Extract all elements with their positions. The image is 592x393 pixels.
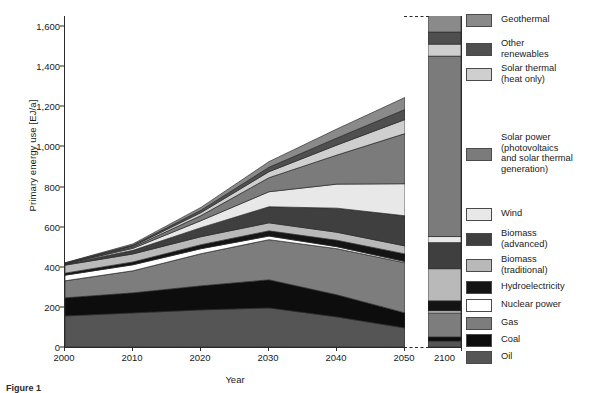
bar-band (428, 32, 461, 44)
x-tick-mark (336, 347, 337, 351)
axis-break-bottom (404, 347, 429, 348)
bar-band (428, 237, 461, 243)
x-tick-label: 2040 (325, 352, 346, 363)
y-tick-label: 0 (55, 342, 60, 353)
bar-band (428, 16, 461, 32)
legend-label: Other renewables (501, 38, 549, 59)
legend-swatch (466, 334, 492, 347)
bar-band (428, 269, 461, 301)
legend-label: Oil (501, 351, 512, 362)
legend-item[interactable]: Solar power (photovoltaics and solar the… (466, 132, 573, 174)
x-tick-label-2100: 2100 (434, 352, 455, 363)
bar-band (428, 44, 461, 56)
area-series-group (65, 16, 405, 347)
legend-swatch (466, 317, 492, 330)
legend-swatch (466, 68, 492, 81)
legend-swatch (466, 259, 492, 272)
legend-label: Nuclear power (501, 299, 561, 310)
x-tick-mark (200, 347, 201, 351)
legend-item[interactable]: Nuclear power (466, 299, 561, 312)
x-tick-label: 2050 (393, 352, 414, 363)
x-axis-title: Year (60, 374, 410, 385)
bar-band (428, 313, 461, 337)
legend-swatch (466, 351, 492, 364)
y-tick-label: 800 (44, 181, 60, 192)
legend-label: Biomass (advanced) (501, 228, 548, 249)
legend-item[interactable]: Biomass (advanced) (466, 228, 548, 249)
legend-label: Hydroelectricity (501, 281, 565, 292)
y-tick-label: 1,200 (36, 101, 60, 112)
x-tick-mark (132, 347, 133, 351)
legend-item[interactable]: Wind (466, 208, 522, 221)
legend-item[interactable]: Other renewables (466, 38, 549, 59)
year-2100-bar-plot (428, 16, 462, 348)
y-tick-label: 400 (44, 261, 60, 272)
bar-band (428, 56, 461, 237)
y-axis-ticks: 02004006008001,0001,2001,4001,600 (16, 0, 60, 391)
main-stacked-area-plot (64, 16, 405, 348)
legend-swatch (466, 299, 492, 312)
legend-label: Gas (501, 317, 518, 328)
legend-swatch (466, 281, 492, 294)
figure-caption: Figure 1 (6, 383, 41, 393)
x-tick-label: 2010 (121, 352, 142, 363)
legend-item[interactable]: Solar thermal (heat only) (466, 63, 556, 84)
legend-item[interactable]: Oil (466, 351, 512, 364)
x-tick-mark (268, 347, 269, 351)
legend: GeothermalOther renewablesSolar thermal … (466, 12, 592, 357)
legend-label: Geothermal (501, 14, 550, 25)
legend-swatch (466, 233, 492, 246)
y-tick-label: 1,000 (36, 141, 60, 152)
legend-item[interactable]: Geothermal (466, 14, 550, 27)
bar-band (428, 341, 461, 347)
legend-label: Coal (501, 334, 520, 345)
legend-item[interactable]: Gas (466, 317, 518, 330)
y-tick-label: 200 (44, 301, 60, 312)
y-tick-label: 1,600 (36, 21, 60, 32)
legend-label: Biomass (traditional) (501, 254, 548, 275)
legend-swatch (466, 43, 492, 56)
legend-item[interactable]: Coal (466, 334, 520, 347)
x-tick-label: 2000 (53, 352, 74, 363)
legend-swatch (466, 14, 492, 27)
legend-item[interactable]: Hydroelectricity (466, 281, 565, 294)
bar-band (428, 301, 461, 311)
legend-swatch (466, 148, 492, 161)
bar-band (428, 337, 461, 341)
legend-swatch (466, 208, 492, 221)
legend-label: Solar power (photovoltaics and solar the… (501, 132, 573, 174)
y-tick-label: 1,400 (36, 61, 60, 72)
x-tick-label: 2020 (189, 352, 210, 363)
legend-label: Solar thermal (heat only) (501, 63, 556, 84)
x-tick-label: 2030 (257, 352, 278, 363)
legend-label: Wind (501, 208, 522, 219)
legend-item[interactable]: Biomass (traditional) (466, 254, 548, 275)
bar-series-group (428, 16, 461, 347)
y-tick-label: 600 (44, 221, 60, 232)
bar-band (428, 243, 461, 269)
x-tick-mark (64, 347, 65, 351)
axis-break-top (404, 16, 429, 17)
x-tick-mark-2100 (461, 347, 462, 351)
